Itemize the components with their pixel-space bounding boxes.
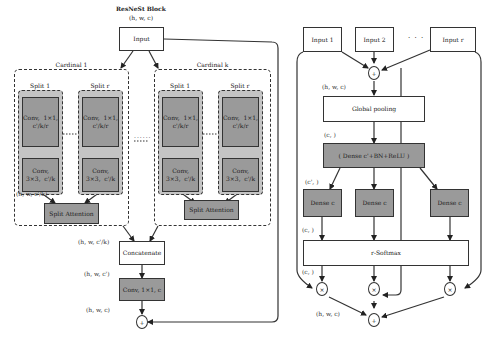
input-r-box: Input r — [430, 27, 476, 52]
concatenate-box: Concatenate — [119, 241, 165, 265]
cardinal-1-label: Cardinal 1 — [14, 61, 129, 68]
split-attention-box: Split Attention — [44, 203, 99, 224]
sum-node: + — [368, 66, 380, 80]
sum-node: + — [136, 315, 148, 329]
final-sum-node: + — [368, 313, 380, 327]
out-dims: (h, w, c) — [86, 306, 110, 313]
input-box: Input — [119, 27, 164, 51]
input-1-box: Input 1 — [303, 27, 342, 52]
conv-3x3-box: Conv, 3×3, c'/k — [22, 158, 59, 192]
dense-dims: (c', ) — [305, 178, 319, 185]
dense-c-box-1: Dense c — [303, 189, 342, 217]
input-2-box: Input 2 — [355, 27, 394, 52]
input-dims: (h, w, c) — [114, 14, 168, 21]
split-r-label: Split r — [218, 82, 262, 89]
conv-1x1-box: Conv, 1×1, c'/k/r — [162, 97, 199, 147]
cardinal-ellipsis: ...... — [134, 132, 151, 139]
split-dims: (h, w, c'/k) — [16, 190, 47, 197]
conv-3x3-box: Conv, 3×3, c'/k — [82, 158, 119, 192]
r-softmax-box: r-Softmax — [303, 240, 469, 266]
concat-out-dims: (h, w, c') — [84, 270, 110, 277]
softmax-dims: (c, ) — [302, 268, 314, 275]
conv-1x1-box: Conv, 1×1, c'/k/r — [222, 97, 259, 147]
multiply-node-r: × — [444, 282, 456, 296]
right-out-dims: (h, w, c) — [316, 310, 340, 317]
split-1-label: Split 1 — [18, 82, 62, 89]
dense-c-box-r: Dense c — [430, 189, 469, 217]
sum-dims: (h, w, c) — [322, 83, 346, 90]
conv-3x3-box: Conv, 3×3, c'/k — [222, 158, 259, 192]
split-attention-box: Split Attention — [184, 200, 239, 220]
conv-1x1-box: Conv, 1×1, c'/k/r — [82, 97, 119, 147]
conv-1x1-box: Conv, 1×1, c'/k/r — [22, 97, 59, 147]
split-1-label: Split 1 — [158, 82, 202, 89]
conv-3x3-box: Conv, 3×3, c'/k — [162, 158, 199, 192]
global-pooling-box: Global pooling — [323, 96, 425, 122]
multiply-node-1: × — [316, 282, 328, 296]
multiply-node-2: × — [368, 282, 380, 296]
concat-in-dims: (h, w, c'/k) — [78, 238, 109, 245]
dense-c-box-2: Dense c — [355, 189, 394, 217]
split-r-label: Split r — [78, 82, 122, 89]
cardinal-k-label: Cardinal k — [154, 61, 271, 68]
resnest-block-title: ResNeSt Block — [114, 5, 168, 12]
final-conv-box: Conv, 1×1, c — [119, 278, 165, 301]
branch-dims: (c, ) — [302, 226, 314, 233]
dense-bn-relu-box: ( Dense c'+BN+ReLU ) — [323, 143, 425, 168]
pool-dims: (c, ) — [324, 131, 336, 138]
inputs-ellipsis: · · · — [408, 34, 424, 42]
